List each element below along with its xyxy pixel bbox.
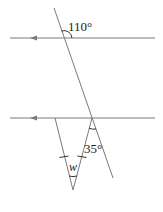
angle-label-35: 35°: [84, 141, 102, 156]
angle-arc-35: [89, 128, 96, 129]
lower-parallel-line: [10, 116, 155, 121]
upper-parallel-line: [10, 36, 155, 41]
angle-label-w: w: [69, 160, 77, 174]
angle-arc-w: [69, 176, 77, 177]
left-arrow-icon: [30, 36, 37, 41]
geometry-diagram: 110° 35° w: [0, 0, 163, 212]
triangle-left-side: [55, 118, 73, 190]
angle-label-110: 110°: [68, 19, 92, 34]
left-arrow-icon: [30, 116, 37, 121]
tick-mark-left: [60, 156, 69, 158]
